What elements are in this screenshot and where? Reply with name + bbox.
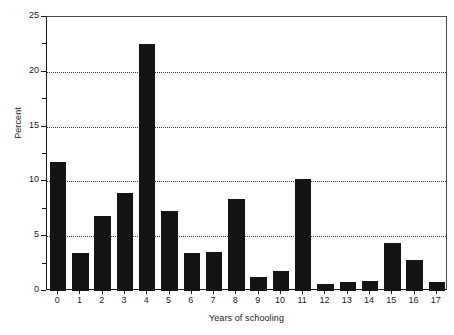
bar xyxy=(184,253,200,291)
x-axis-tick-label: 7 xyxy=(202,296,224,305)
x-axis-tick xyxy=(79,290,80,294)
x-axis-tick xyxy=(213,290,214,294)
bar xyxy=(362,281,378,291)
x-axis-tick xyxy=(369,290,370,294)
x-axis-tick-label: 8 xyxy=(224,296,246,305)
x-axis-tick xyxy=(436,290,437,294)
y-axis-tick xyxy=(41,290,46,291)
y-axis-tick-label: 20 xyxy=(9,66,39,75)
bar xyxy=(139,44,155,291)
bar xyxy=(295,179,311,291)
gridline xyxy=(47,181,446,182)
x-axis-tick xyxy=(302,290,303,294)
bar xyxy=(161,211,177,291)
x-axis-title: Years of schooling xyxy=(46,313,447,323)
x-axis-tick xyxy=(414,290,415,294)
x-axis-tick xyxy=(347,290,348,294)
x-axis-tick xyxy=(235,290,236,294)
x-axis-tick-label: 15 xyxy=(380,296,402,305)
bar xyxy=(273,271,289,291)
plot-area xyxy=(46,16,447,290)
x-axis-tick-label: 10 xyxy=(269,296,291,305)
x-axis-tick-label: 4 xyxy=(135,296,157,305)
bar xyxy=(384,243,400,291)
x-axis-tick xyxy=(280,290,281,294)
x-axis-tick-label: 16 xyxy=(402,296,424,305)
x-axis-tick xyxy=(324,290,325,294)
x-axis-tick xyxy=(102,290,103,294)
x-axis-tick xyxy=(146,290,147,294)
x-axis-tick xyxy=(169,290,170,294)
x-axis-tick xyxy=(124,290,125,294)
bar-chart: Percent 0510152025 012345678910111213141… xyxy=(0,0,454,335)
y-axis-tick-label: 15 xyxy=(9,121,39,130)
y-axis-tick-label: 0 xyxy=(9,285,39,294)
x-axis-tick-label: 0 xyxy=(46,296,68,305)
x-axis-tick xyxy=(258,290,259,294)
x-axis-tick-label: 3 xyxy=(113,296,135,305)
x-axis-tick-label: 12 xyxy=(313,296,335,305)
bar xyxy=(50,162,66,291)
gridline xyxy=(47,72,446,73)
gridline xyxy=(47,127,446,128)
x-axis-tick xyxy=(391,290,392,294)
bar xyxy=(94,216,110,291)
x-axis-tick-label: 1 xyxy=(68,296,90,305)
bar xyxy=(117,193,133,291)
x-axis-tick-label: 17 xyxy=(425,296,447,305)
x-axis-tick-label: 13 xyxy=(336,296,358,305)
x-axis-tick xyxy=(191,290,192,294)
bar xyxy=(406,260,422,291)
y-axis-tick-label: 5 xyxy=(9,230,39,239)
x-axis-tick xyxy=(57,290,58,294)
x-axis-tick-label: 9 xyxy=(247,296,269,305)
y-axis-tick-label: 25 xyxy=(9,11,39,20)
x-axis-tick-label: 6 xyxy=(180,296,202,305)
x-axis-tick-label: 14 xyxy=(358,296,380,305)
x-axis-tick-label: 2 xyxy=(91,296,113,305)
y-axis-tick-label: 10 xyxy=(9,175,39,184)
bar xyxy=(206,252,222,291)
x-axis-tick-label: 11 xyxy=(291,296,313,305)
bar xyxy=(250,277,266,291)
bar xyxy=(228,199,244,291)
x-axis-tick-label: 5 xyxy=(157,296,179,305)
bar xyxy=(72,253,88,291)
